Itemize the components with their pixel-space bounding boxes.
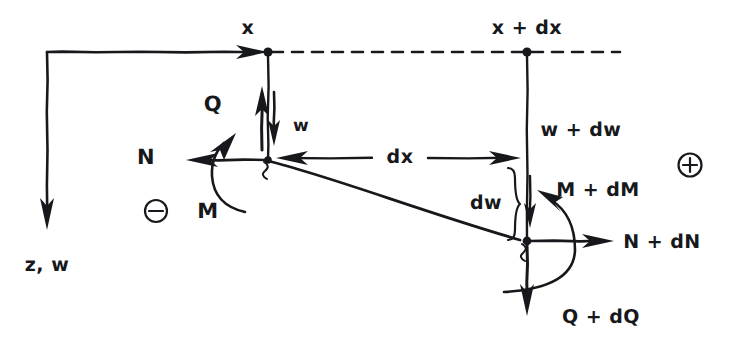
label-station-x: x	[242, 17, 255, 39]
deflection-arrow-left	[268, 92, 280, 146]
shear-arrow-right	[520, 245, 534, 316]
label-deflection-left: w	[293, 116, 309, 136]
label-moment-right: M + dM	[556, 179, 640, 201]
label-deflection-increment: dw	[470, 192, 502, 214]
label-normal-left: N	[137, 145, 155, 169]
label-deflection-right: w + dw	[541, 119, 622, 141]
label-normal-right: N + dN	[623, 231, 701, 253]
diagram-canvas	[0, 0, 741, 348]
sign-convention-negative-icon	[145, 200, 167, 222]
beam-element-diagram: x x + dx Q w N M z, w dx w + dw dw M + d…	[0, 0, 741, 348]
label-axis-z-w: z, w	[25, 254, 69, 276]
left-drop-line	[268, 56, 269, 160]
sign-convention-positive-icon	[679, 154, 702, 177]
label-shear-left: Q	[204, 92, 222, 116]
z-axis-arrow	[40, 52, 54, 230]
x-axis-arrow	[47, 45, 268, 59]
label-shear-right: Q + dQ	[562, 306, 640, 328]
left-section-node	[263, 156, 272, 179]
normal-arrow-right	[530, 234, 614, 248]
dw-brace	[508, 168, 520, 240]
label-moment-left: M	[197, 199, 218, 223]
label-span-dx: dx	[387, 146, 414, 168]
label-station-x-plus-dx: x + dx	[492, 17, 562, 39]
